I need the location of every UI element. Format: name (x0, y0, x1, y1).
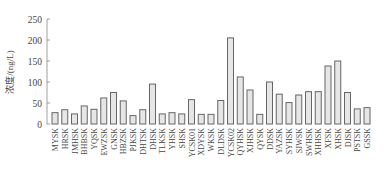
x-tick-label: DHSK (149, 128, 158, 150)
x-tick-label: WKSK (207, 128, 216, 152)
x-tick-label: YAZSK (275, 128, 284, 154)
bar-hbzsk (120, 101, 126, 124)
x-tick-label: GSSK (363, 128, 372, 149)
bar-qysk (257, 114, 263, 124)
bar-dhsk (150, 84, 156, 124)
x-tick-label: YCSK01 (188, 128, 197, 157)
bar-syhsk (286, 103, 292, 124)
x-tick-label: HBZSK (119, 128, 128, 154)
y-tick-label: 0 (37, 120, 42, 130)
x-tick-label: XDYSK (197, 128, 206, 156)
x-tick-label: TLKSK (158, 128, 167, 154)
bar-xfsk (325, 66, 331, 124)
y-axis-title: 浓度/(ng/L) (4, 50, 15, 94)
bar-swhsk (306, 92, 312, 124)
bar-wksk (208, 114, 214, 124)
bar-gssk (364, 108, 370, 124)
bar-ycsk02 (228, 38, 234, 124)
bars (52, 38, 370, 124)
x-tick-label: XFSK (324, 128, 333, 149)
bar-dhtsk (140, 110, 146, 124)
bar-ycsk01 (189, 100, 195, 124)
y-tick-label: 200 (28, 36, 43, 46)
bar-yqsk (91, 109, 97, 124)
y-tick-label: 50 (33, 99, 43, 109)
bar-xhsk (335, 61, 341, 124)
bar-pstsk (354, 109, 360, 124)
bar-dldsk (218, 100, 224, 124)
bar-sjwsk (296, 95, 302, 124)
bar-yhsk (169, 113, 175, 124)
x-tick-label: SJWSK (295, 128, 304, 154)
bar-tlksk (159, 114, 165, 124)
bar-jmhsk (72, 114, 78, 124)
x-tick-label: YCSK02 (227, 128, 236, 157)
x-tick-label: SWHSK (305, 128, 314, 156)
x-tick-label: DJSK (344, 128, 353, 147)
x-tick-label: GNSK (110, 128, 119, 150)
x-tick-label: QYHSK (236, 128, 245, 156)
bar-djsk (345, 93, 351, 125)
bar-shsk (179, 114, 185, 124)
bar-chart: 050100150200250 浓度/(ng/L) MYSKHRSKJMHSKB… (0, 0, 386, 174)
x-tick-label: HRSK (61, 128, 70, 150)
x-tick-label: BHBSK (80, 128, 89, 155)
x-tick-label: XHSK (334, 128, 343, 150)
y-tick-label: 100 (28, 78, 43, 88)
bar-xhhsk (315, 92, 321, 124)
x-tick-label: DHTSK (139, 128, 148, 155)
y-tick-label: 150 (28, 57, 43, 67)
x-tick-label: QYSK (256, 128, 265, 150)
bar-hrsk (62, 110, 68, 124)
bar-bhbsk (81, 106, 87, 124)
bar-qyhsk (237, 77, 243, 124)
bar-xjhsk (247, 90, 253, 124)
x-tick-label: MYSK (51, 128, 60, 151)
bar-yazsk (276, 94, 282, 124)
y-tick-label: 250 (28, 15, 43, 25)
x-axis-labels: MYSKHRSKJMHSKBHBSKYQSKEWZSKGNSKHBZSKPJKS… (51, 128, 372, 158)
x-tick-label: EWZSK (100, 128, 109, 156)
bar-ddsk (267, 82, 273, 124)
bar-mysk (52, 113, 58, 124)
x-tick-label: XHHSK (314, 128, 323, 156)
x-tick-label: PSTSK (353, 128, 362, 152)
x-tick-label: PJKSK (129, 128, 138, 152)
bar-gnsk (111, 93, 117, 125)
x-tick-label: YHSK (168, 128, 177, 150)
x-tick-label: DLDSK (217, 128, 226, 155)
x-tick-label: SYHSK (285, 128, 294, 154)
x-tick-label: YQSK (90, 128, 99, 150)
bar-xdysk (198, 114, 204, 124)
x-tick-label: SHSK (178, 128, 187, 149)
bar-pjksk (130, 116, 136, 124)
x-tick-label: DDSK (266, 128, 275, 150)
x-tick-label: XJHSK (246, 128, 255, 153)
y-axis: 050100150200250 (28, 15, 50, 130)
bar-ewzsk (101, 98, 107, 124)
x-tick-label: JMHSK (71, 128, 80, 154)
